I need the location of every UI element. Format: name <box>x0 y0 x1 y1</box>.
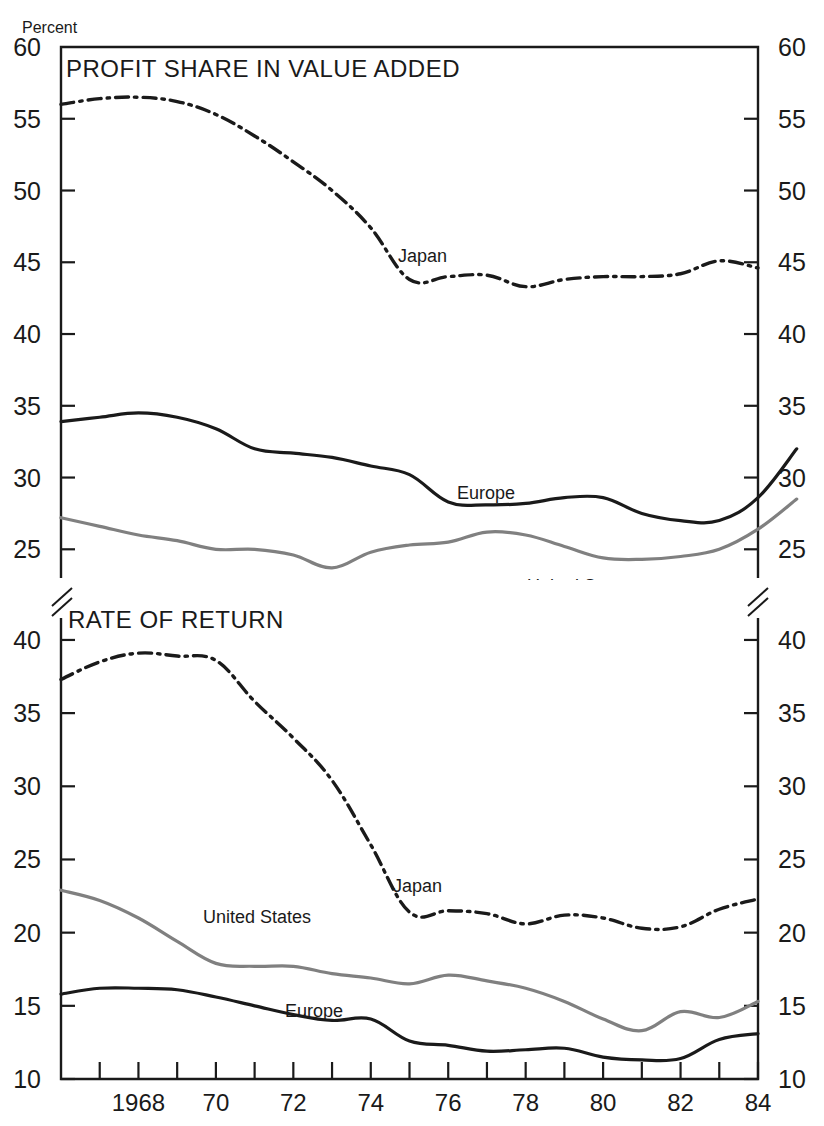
top-series-label-europe: Europe <box>457 483 515 503</box>
y-tick-label-left-40: 40 <box>13 320 41 348</box>
y-tick-label-right-10: 10 <box>778 1065 806 1093</box>
figure-container: Percent 6055504540353025 605550454035302… <box>0 0 824 1126</box>
y-tick-label-right-50: 50 <box>778 177 806 205</box>
y-tick-label-left-20: 20 <box>13 919 41 947</box>
chart-background <box>0 0 824 1126</box>
y-tick-label-left-15: 15 <box>13 992 41 1020</box>
x-tick-label-1968: 1968 <box>112 1089 165 1116</box>
y-tick-label-left-35: 35 <box>13 392 41 420</box>
y-tick-label-right-25: 25 <box>778 845 806 873</box>
y-tick-label-left-10: 10 <box>13 1065 41 1093</box>
y-tick-label-right-40: 40 <box>778 626 806 654</box>
y-tick-label-right-45: 45 <box>778 248 806 276</box>
y-tick-label-left-35: 35 <box>13 699 41 727</box>
y-tick-label-left-25: 25 <box>13 845 41 873</box>
profit-share-and-rate-of-return-chart: Percent 6055504540353025 605550454035302… <box>0 0 824 1126</box>
y-tick-label-left-50: 50 <box>13 177 41 205</box>
y-tick-label-right-40: 40 <box>778 320 806 348</box>
y-tick-label-left-60: 60 <box>13 33 41 61</box>
x-axis-tick-labels: 19687072747678808284 <box>112 1089 772 1116</box>
y-tick-label-left-40: 40 <box>13 626 41 654</box>
x-tick-label-1970: 70 <box>203 1089 230 1116</box>
y-tick-label-left-55: 55 <box>13 105 41 133</box>
x-tick-label-1972: 72 <box>280 1089 307 1116</box>
x-tick-label-1984: 84 <box>745 1089 772 1116</box>
y-tick-label-right-25: 25 <box>778 535 806 563</box>
y-tick-label-right-35: 35 <box>778 699 806 727</box>
top-series-label-japan: Japan <box>398 246 447 266</box>
y-tick-label-left-30: 30 <box>13 772 41 800</box>
y-tick-label-left-25: 25 <box>13 535 41 563</box>
bottom-series-label-united-states: United States <box>203 907 311 927</box>
y-tick-label-right-60: 60 <box>778 33 806 61</box>
bottom-series-label-japan: Japan <box>393 876 442 896</box>
y-tick-label-left-45: 45 <box>13 248 41 276</box>
y-tick-label-right-55: 55 <box>778 105 806 133</box>
top-panel-title: PROFIT SHARE IN VALUE ADDED <box>66 55 460 82</box>
y-tick-label-right-35: 35 <box>778 392 806 420</box>
y-tick-label-right-30: 30 <box>778 772 806 800</box>
bottom-series-label-europe: Europe <box>285 1001 343 1021</box>
x-tick-label-1974: 74 <box>357 1089 384 1116</box>
bottom-panel-title: RATE OF RETURN <box>68 606 284 633</box>
x-tick-label-1982: 82 <box>667 1089 694 1116</box>
x-tick-label-1978: 78 <box>512 1089 539 1116</box>
x-tick-label-1976: 76 <box>435 1089 462 1116</box>
y-tick-label-right-15: 15 <box>778 992 806 1020</box>
y-tick-label-right-20: 20 <box>778 919 806 947</box>
x-tick-label-1980: 80 <box>590 1089 617 1116</box>
y-tick-label-left-30: 30 <box>13 464 41 492</box>
